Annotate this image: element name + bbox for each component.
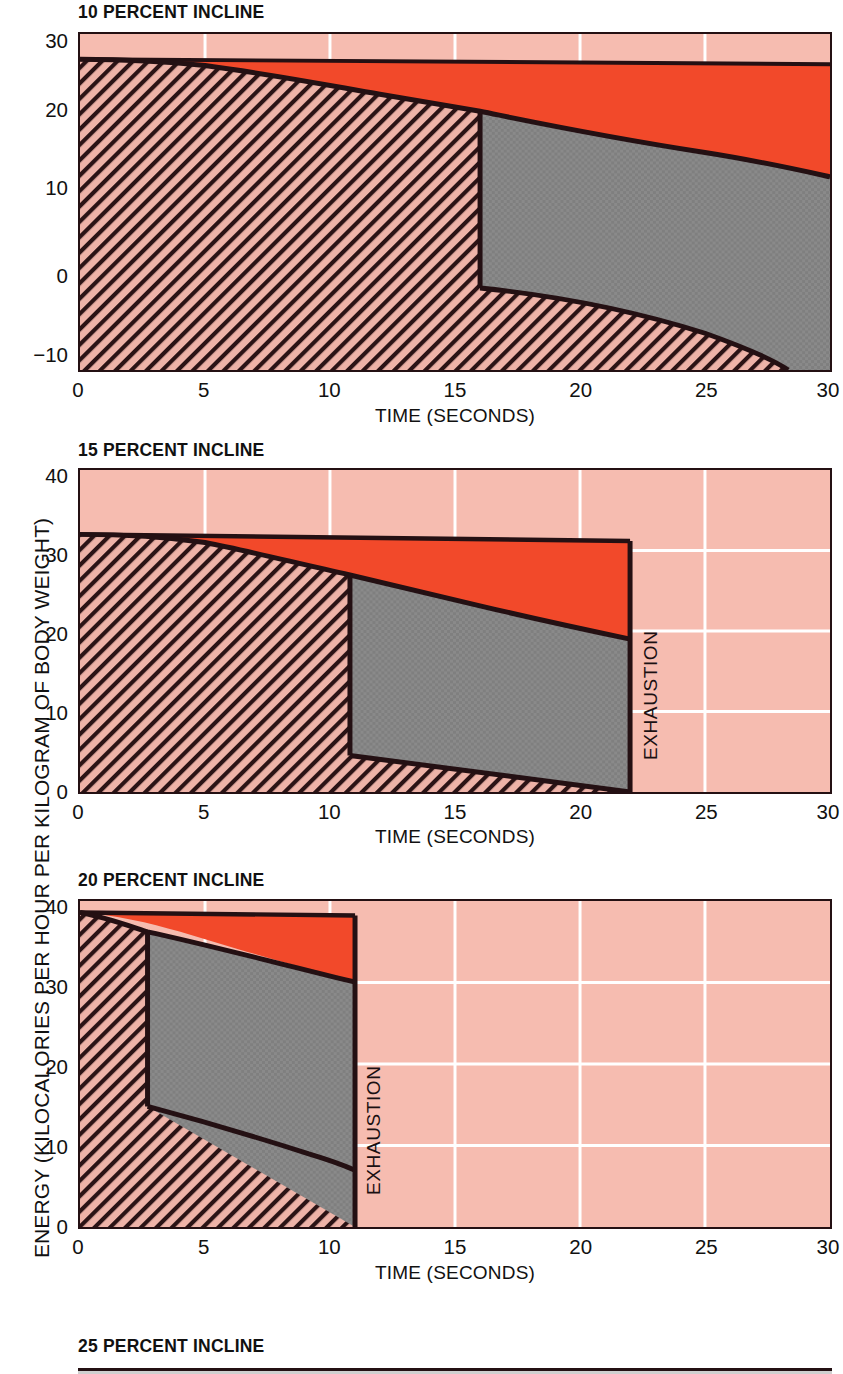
panel-20-percent: 20 PERCENT INCLINE 40 30 20 10 0	[0, 840, 843, 1240]
x-tick-label: 25	[695, 800, 718, 824]
panel-25-plot-top-edge	[78, 1368, 832, 1374]
y-tick-label: 0	[14, 264, 68, 288]
y-tick-label: 30	[18, 543, 68, 567]
panel-10-percent: 10 PERCENT INCLINE 30 20 10 0 −10	[0, 0, 843, 430]
curve-total-demand	[80, 912, 355, 915]
panel-title: 25 PERCENT INCLINE	[78, 1336, 264, 1357]
y-tick-label: 10	[20, 176, 68, 200]
x-tick-label: 30	[817, 378, 840, 402]
plot-area-20-percent	[78, 899, 832, 1229]
x-tick-label: 5	[198, 378, 209, 402]
plot-area-15-percent	[78, 468, 832, 794]
panel-title: 10 PERCENT INCLINE	[78, 2, 264, 23]
y-tick-label: 20	[20, 98, 68, 122]
x-tick-label: 15	[444, 800, 467, 824]
x-tick-label: 10	[318, 378, 341, 402]
panel-title: 15 PERCENT INCLINE	[78, 440, 264, 461]
x-tick-label: 0	[72, 800, 83, 824]
x-tick-label: 0	[72, 378, 83, 402]
y-tick-label: 10	[18, 1135, 68, 1159]
plot-svg	[80, 901, 830, 1227]
y-tick-label: −10	[12, 343, 68, 367]
plot-area-10-percent	[78, 32, 832, 372]
y-tick-label: 0	[18, 780, 68, 804]
y-tick-label: 20	[18, 1055, 68, 1079]
x-tick-label: 30	[817, 800, 840, 824]
y-tick-label: 40	[18, 895, 68, 919]
y-tick-label: 30	[18, 975, 68, 999]
y-tick-label: 10	[18, 701, 68, 725]
x-tick-label: 20	[569, 800, 592, 824]
panel-title: 20 PERCENT INCLINE	[78, 870, 264, 891]
y-tick-label: 20	[18, 622, 68, 646]
x-tick-label: 10	[318, 800, 341, 824]
x-axis-title: TIME (SECONDS)	[375, 405, 535, 427]
exhaustion-label: EXHAUSTION	[363, 1065, 385, 1195]
x-tick-label: 25	[695, 378, 718, 402]
x-tick-label: 15	[444, 378, 467, 402]
y-tick-label: 0	[18, 1215, 68, 1239]
plot-svg	[80, 470, 830, 792]
y-tick-label: 30	[20, 29, 68, 53]
panel-15-percent: 15 PERCENT INCLINE 40 30 20 10 0	[0, 430, 843, 840]
panel-25-percent: 25 PERCENT INCLINE	[0, 1240, 843, 1371]
x-tick-label: 20	[569, 378, 592, 402]
plot-svg	[80, 34, 830, 370]
x-tick-label: 5	[198, 800, 209, 824]
y-tick-label: 40	[18, 464, 68, 488]
exhaustion-label: EXHAUSTION	[640, 630, 662, 760]
